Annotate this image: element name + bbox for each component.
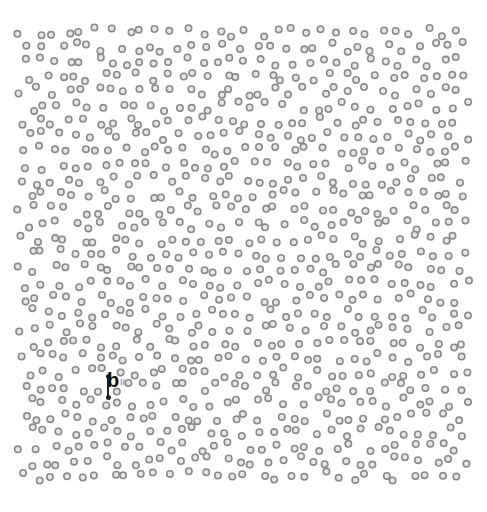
dot (124, 62, 130, 68)
dot (206, 403, 212, 409)
dot (44, 461, 50, 467)
dot (418, 248, 424, 254)
dot (429, 314, 435, 320)
dot (37, 399, 43, 405)
dot (66, 116, 72, 122)
dot (112, 196, 118, 202)
dot (252, 158, 258, 164)
dot (367, 327, 373, 333)
dot (417, 137, 423, 143)
dot (310, 77, 316, 83)
dot (217, 285, 223, 291)
dot (52, 462, 58, 468)
dot (350, 261, 356, 267)
dot (368, 370, 374, 376)
dot (91, 24, 97, 30)
dot (222, 341, 228, 347)
dot (225, 267, 231, 273)
dot (293, 297, 299, 303)
dot (352, 104, 358, 110)
dot (104, 453, 110, 459)
dot (301, 203, 307, 209)
dot (159, 366, 165, 372)
dot (104, 267, 110, 273)
dot (179, 380, 185, 386)
dot (434, 73, 440, 79)
dot (161, 108, 167, 114)
dot (221, 130, 227, 136)
dot (400, 394, 406, 400)
dot (292, 147, 298, 153)
dot (62, 148, 68, 154)
dot (335, 446, 341, 452)
dot (357, 462, 363, 468)
dot (116, 160, 122, 166)
dot (445, 133, 451, 139)
dot (257, 266, 263, 272)
dot (427, 149, 433, 155)
dot (270, 72, 276, 78)
dot (318, 232, 324, 238)
dot (369, 163, 375, 169)
dot (443, 238, 449, 244)
dot (280, 401, 286, 407)
dot (87, 396, 93, 402)
dot (247, 461, 253, 467)
dot (404, 217, 410, 223)
dot (174, 46, 180, 52)
dot (387, 253, 393, 259)
dot (231, 158, 237, 164)
dot (73, 432, 79, 438)
dot (240, 58, 246, 64)
dot (435, 193, 441, 199)
dot (254, 372, 260, 378)
dot (114, 428, 120, 434)
dot (451, 281, 457, 287)
dot (451, 300, 457, 306)
dot (352, 356, 358, 362)
dot (190, 404, 196, 410)
dot (357, 399, 363, 405)
dot (292, 267, 298, 273)
dot (299, 120, 305, 126)
dot (217, 178, 223, 184)
dot (368, 55, 374, 61)
dot (225, 86, 231, 92)
dot (263, 387, 269, 393)
dot (20, 147, 26, 153)
dot (279, 414, 285, 420)
dot (383, 403, 389, 409)
dot (380, 88, 386, 94)
dot (312, 311, 318, 317)
dot (49, 92, 55, 98)
dot (168, 447, 174, 453)
dot (72, 251, 78, 257)
panel-label: b (107, 370, 119, 390)
dot (316, 107, 322, 113)
dot (270, 181, 276, 187)
dot (410, 202, 416, 208)
dot (114, 462, 120, 468)
dot (159, 313, 165, 319)
dot (73, 132, 79, 138)
dot (465, 399, 471, 405)
dot (15, 446, 21, 452)
dot (201, 292, 207, 298)
dot (389, 281, 395, 287)
dot (172, 355, 178, 361)
dot (206, 252, 212, 258)
dot (60, 354, 66, 360)
dot (287, 325, 293, 331)
dot (177, 105, 183, 111)
dot (52, 235, 58, 241)
dot (107, 85, 113, 91)
dot (113, 472, 119, 478)
dot (319, 144, 325, 150)
dot (186, 266, 192, 272)
dot (353, 122, 359, 128)
dot (178, 458, 184, 464)
dot (61, 43, 67, 49)
dot (70, 73, 76, 79)
dot (405, 359, 411, 365)
dot (281, 281, 287, 287)
